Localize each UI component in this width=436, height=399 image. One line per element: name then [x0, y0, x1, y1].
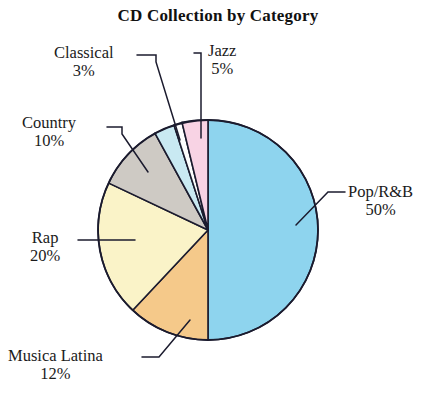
- slice-label-musica-latina-name: Musica Latina: [8, 346, 103, 365]
- pie-slices-group: [98, 120, 318, 340]
- slice-label-musica-latina: Musica Latina 12%: [8, 347, 103, 384]
- slice-label-classical-pct: 3%: [54, 62, 114, 80]
- slice-label-pop-rb-name: Pop/R&B: [348, 182, 413, 201]
- slice-label-country-name: Country: [22, 113, 76, 132]
- pie-slice-pop-rb: [208, 120, 318, 340]
- slice-label-jazz-name: Jazz: [208, 41, 236, 60]
- slice-label-musica-latina-pct: 12%: [8, 365, 103, 383]
- slice-label-pop-rb-pct: 50%: [348, 201, 413, 219]
- slice-label-jazz-pct: 5%: [208, 60, 236, 78]
- slice-label-rap: Rap 20%: [30, 229, 60, 266]
- slice-label-pop-rb: Pop/R&B 50%: [348, 183, 413, 220]
- slice-label-classical-name: Classical: [54, 43, 114, 62]
- pie-chart-figure: CD Collection by Category: [0, 0, 436, 399]
- slice-label-jazz: Jazz 5%: [208, 42, 236, 79]
- slice-label-rap-pct: 20%: [30, 247, 60, 265]
- slice-label-country-pct: 10%: [22, 132, 76, 150]
- slice-label-rap-name: Rap: [32, 228, 59, 247]
- slice-label-country: Country 10%: [22, 114, 76, 151]
- slice-label-classical: Classical 3%: [54, 44, 114, 81]
